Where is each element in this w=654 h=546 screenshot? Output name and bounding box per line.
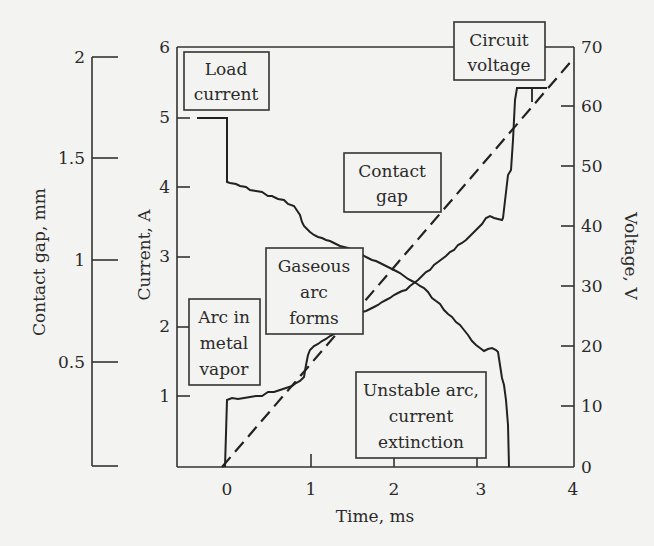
contact-gap-axis-title: Contact gap, mm [29,188,49,336]
current-tick-4: 4 [159,177,170,197]
current-axis-title: Current, A [134,209,154,301]
circuit-voltage-label-line1: Circuit [469,30,528,50]
unstable-arc-label-line2: current [389,406,454,426]
current-tick-labels: 6 5 4 3 2 1 [159,37,170,406]
voltage-tick-0: 0 [581,457,592,477]
gap-tick-2: 2 [74,47,85,67]
contact-gap-axis [92,57,118,466]
load-current-label-line1: Load [205,59,248,79]
unstable-arc-label-line3: extinction [378,432,464,452]
contact-gap-box: Contact gap [344,153,441,212]
time-tick-0: 0 [222,479,233,499]
voltage-axis-title: Voltage, V [621,211,641,300]
gap-tick-1-5: 1.5 [58,148,85,168]
gaseous-arc-label-line3: forms [289,308,339,328]
current-tick-2: 2 [159,316,170,336]
metal-vapor-label-line2: metal [200,333,249,353]
current-axis-ticks [177,118,190,396]
load-current-box: Load current [184,52,269,110]
load-current-label-line2: current [194,84,259,104]
current-tick-3: 3 [159,246,170,266]
voltage-tick-10: 10 [581,396,603,416]
gap-tick-1: 1 [74,250,85,270]
unstable-arc-label-line1: Unstable arc, [363,380,479,400]
voltage-tick-30: 30 [581,276,603,296]
circuit-voltage-box: Circuit voltage [454,22,545,80]
voltage-tick-70: 70 [581,37,603,57]
current-tick-5: 5 [159,107,170,127]
contact-gap-tick-labels: 2 1.5 1 0.5 [58,47,85,372]
voltage-tick-40: 40 [581,216,603,236]
contact-gap-label-line2: gap [376,186,408,206]
voltage-tick-60: 60 [581,96,603,116]
circuit-voltage-label-line2: voltage [466,55,530,75]
voltage-tick-labels: 0 10 20 30 40 50 60 70 [581,37,603,477]
time-axis-title: Time, ms [336,506,415,526]
time-tick-4: 4 [568,479,579,499]
contact-gap-label-line1: Contact [358,161,426,181]
current-tick-6: 6 [159,37,170,57]
voltage-tick-50: 50 [581,156,603,176]
time-tick-labels: 0 1 2 3 4 [222,479,579,499]
gaseous-arc-label-line1: Gaseous [278,256,350,276]
metal-vapor-label-line3: vapor [199,359,250,379]
arc-chart: 2 1.5 1 0.5 Contact gap, mm 6 5 4 3 2 1 … [0,0,654,546]
time-tick-3: 3 [476,479,487,499]
current-tick-1: 1 [159,386,170,406]
voltage-tick-20: 20 [581,336,603,356]
metal-vapor-label-line1: Arc in [197,307,250,327]
time-tick-1: 1 [306,479,317,499]
gap-tick-0-5: 0.5 [58,352,85,372]
voltage-axis-ticks [561,106,574,406]
gaseous-arc-label-line2: arc [300,282,328,302]
time-tick-2: 2 [389,479,400,499]
metal-vapor-box: Arc in metal vapor [189,299,260,385]
unstable-arc-box: Unstable arc, current extinction [356,372,486,458]
gaseous-arc-box: Gaseous arc forms [266,248,363,334]
